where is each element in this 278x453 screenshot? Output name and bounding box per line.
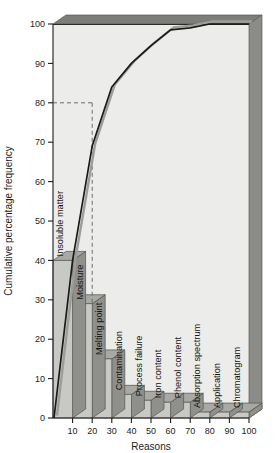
- x-tick-label: 10: [68, 426, 78, 436]
- y-tick-label: 80: [35, 98, 45, 108]
- y-tick-label: 30: [35, 295, 45, 305]
- y-tick-label: 0: [40, 413, 45, 423]
- y-tick-label: 40: [35, 256, 45, 266]
- bar-category-label: Iron content: [153, 349, 163, 398]
- bar-category-label: Absorption spectrum: [192, 323, 202, 408]
- y-tick-label: 50: [35, 216, 45, 226]
- bar-category-label: Melting point: [94, 302, 104, 355]
- bar-category-label: Contamination: [114, 331, 124, 390]
- x-tick-label: 80: [205, 426, 215, 436]
- wall-right-face: [249, 15, 262, 418]
- pareto-chart: 0102030405060708090100102030405060708090…: [0, 0, 278, 453]
- bar-category-label: Phenol content: [173, 336, 183, 398]
- bar-category-label: Moisture: [75, 265, 85, 300]
- x-tick-label: 70: [185, 426, 195, 436]
- y-axis-title: Cumulative percentage frequency: [3, 146, 14, 296]
- bar-category-label: Process failure: [134, 336, 144, 397]
- y-tick-label: 60: [35, 177, 45, 187]
- y-tick-label: 70: [35, 137, 45, 147]
- x-tick-label: 60: [166, 426, 176, 436]
- bar-category-label: Chromatogram: [232, 346, 242, 408]
- x-tick-label: 20: [87, 426, 97, 436]
- y-tick-label: 20: [35, 334, 45, 344]
- bar-category-label: Application: [212, 363, 222, 408]
- y-tick-label: 100: [30, 19, 45, 29]
- x-tick-label: 50: [146, 426, 156, 436]
- bar-category-label: Insoluble matter: [55, 191, 65, 256]
- x-tick-label: 90: [224, 426, 234, 436]
- x-tick-label: 40: [126, 426, 136, 436]
- y-tick-label: 10: [35, 374, 45, 384]
- chart-canvas: 0102030405060708090100102030405060708090…: [0, 0, 278, 453]
- y-tick-label: 90: [35, 59, 45, 69]
- x-tick-label: 30: [107, 426, 117, 436]
- x-axis-title: Reasons: [131, 441, 170, 452]
- x-tick-label: 100: [241, 426, 256, 436]
